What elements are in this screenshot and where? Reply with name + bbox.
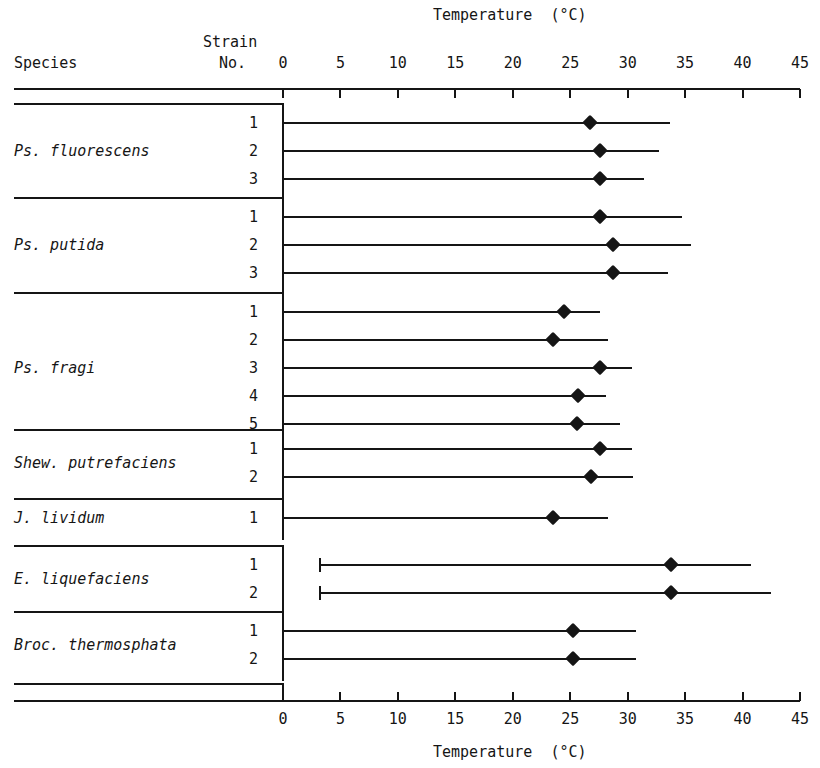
range-min-cap [282, 652, 284, 666]
range-min-cap [282, 238, 284, 252]
axis-tick [627, 692, 629, 701]
range-line [283, 311, 600, 313]
axis-tick-label: 35 [676, 56, 694, 71]
range-line [283, 658, 636, 660]
temperature-range-chart: Temperature (°C) Species Strain No. 0510… [0, 0, 820, 768]
optimum-marker [664, 557, 680, 573]
axis-tick-label: 30 [619, 712, 637, 727]
range-row [0, 208, 820, 226]
axis-tick-label: 10 [389, 712, 407, 727]
group-separator [14, 197, 283, 199]
axis-tick [627, 89, 629, 98]
range-min-cap [282, 389, 284, 403]
range-line [283, 244, 691, 246]
range-line [283, 122, 670, 124]
optimum-marker [565, 623, 581, 639]
range-line [283, 448, 632, 450]
axis-tick [339, 89, 341, 98]
range-row [0, 556, 820, 574]
axis-tick-label: 25 [561, 56, 579, 71]
range-row [0, 622, 820, 640]
axis-tick [512, 692, 514, 701]
optimum-marker [557, 304, 573, 320]
range-min-cap [282, 333, 284, 347]
range-row [0, 468, 820, 486]
group-separator [14, 498, 283, 500]
range-min-cap [282, 470, 284, 484]
range-min-cap [282, 305, 284, 319]
range-line [283, 216, 682, 218]
optimum-marker [569, 416, 585, 432]
axis-tick [454, 692, 456, 701]
optimum-marker [565, 651, 581, 667]
axis-tick-label: 35 [676, 712, 694, 727]
group-separator [14, 545, 283, 547]
range-line [283, 476, 633, 478]
range-min-cap [282, 511, 284, 525]
range-row [0, 509, 820, 527]
axis-tick [339, 692, 341, 701]
axis-tick [397, 89, 399, 98]
axis-tick [742, 692, 744, 701]
range-line [283, 630, 636, 632]
range-min-cap [282, 266, 284, 280]
axis-tick [282, 692, 284, 701]
range-row [0, 331, 820, 349]
optimum-marker [664, 585, 680, 601]
range-min-cap [282, 361, 284, 375]
range-line [283, 395, 606, 397]
range-row [0, 114, 820, 132]
axis-tick-label: 0 [278, 712, 287, 727]
axis-tick [742, 89, 744, 98]
range-min-cap [282, 172, 284, 186]
axis-tick [799, 89, 801, 98]
range-line [283, 178, 644, 180]
optimum-marker [592, 209, 608, 225]
bottom-axis-title: Temperature (°C) [433, 745, 587, 760]
optimum-marker [605, 237, 621, 253]
optimum-marker [592, 441, 608, 457]
range-row [0, 440, 820, 458]
optimum-marker [545, 332, 561, 348]
species-column-header: Species [14, 56, 77, 71]
range-row [0, 584, 820, 602]
optimum-marker [592, 143, 608, 159]
strain-column-header-line1: Strain [203, 35, 257, 50]
axis-tick [282, 89, 284, 98]
optimum-marker [592, 360, 608, 376]
range-line [320, 592, 772, 594]
axis-tick-label: 40 [734, 56, 752, 71]
range-row [0, 264, 820, 282]
group-separator [14, 292, 283, 294]
range-row [0, 359, 820, 377]
axis-tick-label: 45 [791, 56, 809, 71]
optimum-marker [592, 171, 608, 187]
axis-tick-label: 15 [446, 56, 464, 71]
axis-tick-label: 5 [336, 56, 345, 71]
range-line [320, 564, 751, 566]
optimum-marker [582, 115, 598, 131]
optimum-marker [545, 510, 561, 526]
axis-tick-label: 45 [791, 712, 809, 727]
axis-tick-label: 20 [504, 56, 522, 71]
group-separator [14, 683, 283, 685]
range-row [0, 387, 820, 405]
top-axis-title: Temperature (°C) [433, 8, 587, 23]
range-min-cap [319, 558, 321, 572]
top-axis-line [14, 88, 800, 90]
range-line [283, 367, 632, 369]
range-row [0, 236, 820, 254]
axis-tick [569, 89, 571, 98]
optimum-marker [570, 388, 586, 404]
axis-tick-label: 10 [389, 56, 407, 71]
axis-tick [397, 692, 399, 701]
range-min-cap [282, 442, 284, 456]
axis-tick [684, 692, 686, 701]
bottom-axis-line [14, 700, 800, 702]
axis-tick [799, 692, 801, 701]
range-row [0, 142, 820, 160]
group-separator [14, 611, 283, 613]
range-min-cap [282, 624, 284, 638]
axis-tick-label: 15 [446, 712, 464, 727]
range-min-cap [282, 144, 284, 158]
